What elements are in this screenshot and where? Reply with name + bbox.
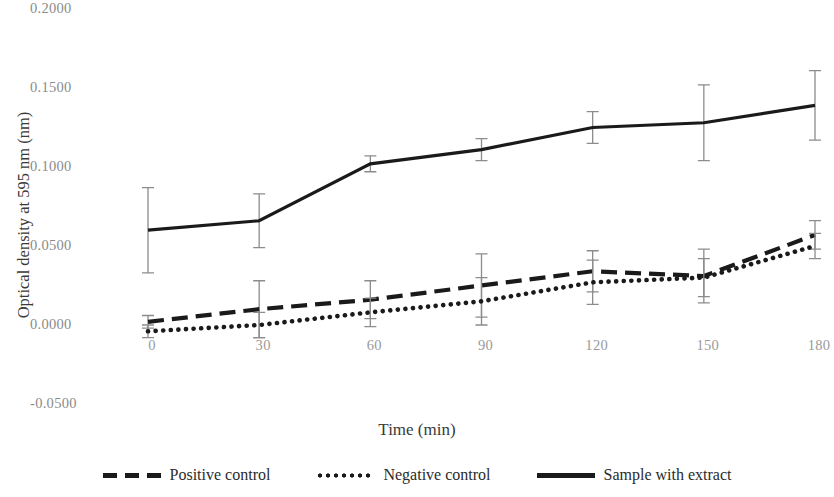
- x-tick-label: 0: [122, 337, 182, 354]
- legend-label: Sample with extract: [604, 466, 732, 484]
- data-line: [148, 105, 815, 230]
- x-tick-label: 120: [567, 337, 627, 354]
- legend-swatch-dashed-icon: [103, 473, 161, 478]
- x-tick-label: 60: [344, 337, 404, 354]
- legend-item[interactable]: Sample with extract: [537, 466, 732, 484]
- chart-container: Optical density at 595 nm (nm) 0.20000.1…: [0, 0, 834, 497]
- series-dotted: [142, 233, 821, 337]
- legend-swatch-dotted-icon: [316, 473, 374, 478]
- x-tick-label: 180: [789, 337, 834, 354]
- x-tick-label: 90: [456, 337, 516, 354]
- legend-label: Negative control: [383, 466, 490, 484]
- chart-legend: Positive controlNegative controlSample w…: [0, 466, 834, 484]
- legend-item[interactable]: Negative control: [316, 466, 490, 484]
- legend-swatch-solid-icon: [537, 473, 595, 478]
- series-solid: [142, 71, 821, 273]
- legend-item[interactable]: Positive control: [103, 466, 271, 484]
- legend-label: Positive control: [170, 466, 271, 484]
- x-axis-title: Time (min): [0, 420, 834, 440]
- x-tick-label: 30: [233, 337, 293, 354]
- x-tick-label: 150: [678, 337, 738, 354]
